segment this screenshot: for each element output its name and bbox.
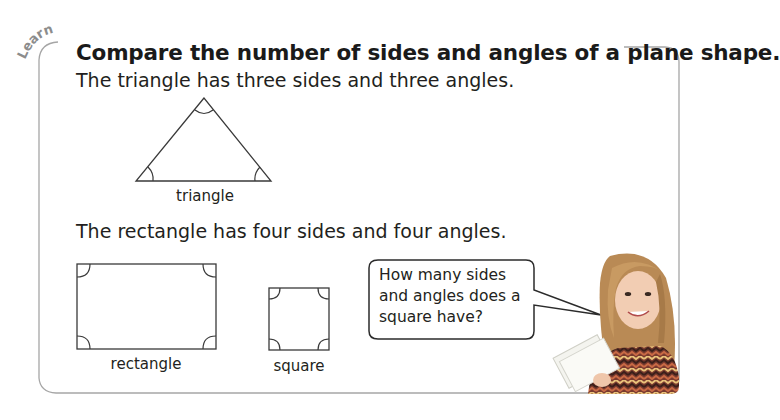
- right-angle-mark: [255, 167, 260, 181]
- rectangle-shape: [77, 264, 216, 349]
- square-shape: [269, 288, 329, 350]
- girl-with-books-image: [548, 248, 680, 394]
- speech-bubble-text: How many sides and angles does a square …: [379, 265, 529, 328]
- apex-angle-mark: [195, 110, 213, 114]
- rectangle-description: The rectangle has four sides and four an…: [76, 220, 506, 242]
- triangle-label: triangle: [150, 187, 260, 205]
- square-label: square: [259, 357, 339, 375]
- learn-tag: Learn: [14, 21, 55, 61]
- svg-text:Learn: Learn: [14, 21, 55, 61]
- section-title: Compare the number of sides and angles o…: [76, 40, 780, 65]
- triangle-shape: [136, 98, 271, 181]
- left-angle-mark: [148, 167, 153, 181]
- triangle-description: The triangle has three sides and three a…: [76, 69, 514, 91]
- learn-tag-label: Learn: [14, 21, 55, 61]
- rectangle-label: rectangle: [86, 355, 206, 373]
